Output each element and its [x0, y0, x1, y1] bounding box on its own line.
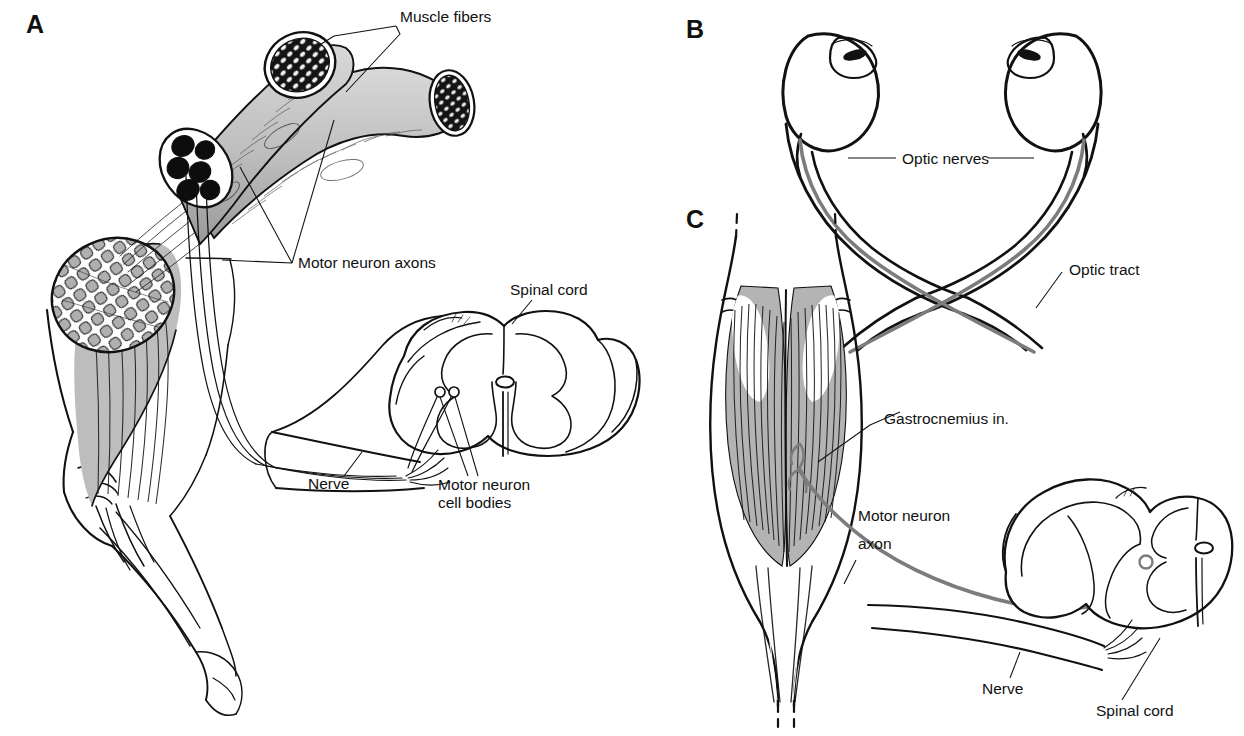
- label-spinal-cord-c: Spinal cord: [1096, 702, 1174, 719]
- label-nerve-c: Nerve: [982, 680, 1023, 697]
- label-nerve-a: Nerve: [308, 475, 349, 492]
- label-motor-neuron-axon-line1: Motor neuron: [858, 507, 950, 524]
- label-gastrocnemius: Gastrocnemius in.: [884, 410, 1009, 427]
- anatomy-figure: A: [0, 0, 1244, 736]
- motor-neuron-cell-body-c: [1140, 556, 1153, 569]
- label-muscle-fibers: Muscle fibers: [400, 8, 492, 25]
- label-motor-neuron-axons: Motor neuron axons: [298, 254, 436, 271]
- label-spinal-cord-a: Spinal cord: [510, 281, 588, 298]
- panel-c-letter: C: [686, 205, 704, 233]
- label-optic-tract: Optic tract: [1069, 261, 1140, 278]
- label-motor-neuron-axon-line2: axon: [858, 535, 892, 552]
- panel-b-letter: B: [686, 15, 704, 43]
- panel-a-letter: A: [26, 10, 44, 38]
- label-optic-nerves: Optic nerves: [902, 150, 989, 167]
- label-cell-bodies-line1: Motor neuron: [438, 476, 530, 493]
- figure-canvas: A: [0, 0, 1244, 736]
- label-cell-bodies-line2: cell bodies: [438, 494, 511, 511]
